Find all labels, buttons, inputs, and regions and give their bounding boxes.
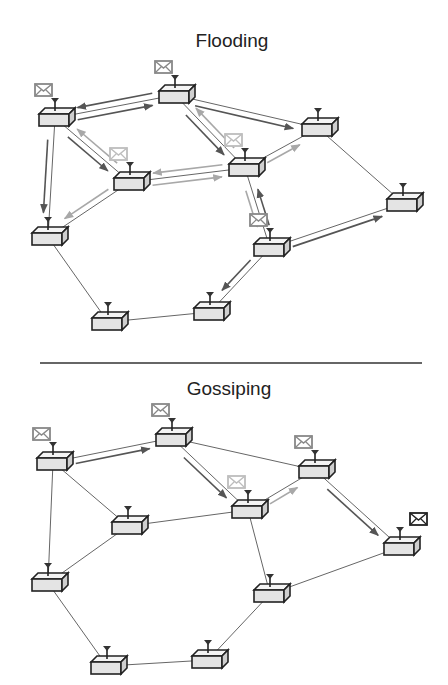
envelope-icon [152,404,169,416]
message-arrow [68,137,108,171]
message-arrow [78,105,153,119]
network-link [172,438,248,510]
network-link [245,168,270,248]
envelope-icon [228,476,245,488]
message-arrow [65,189,109,218]
message-arrow [327,489,378,535]
sensor-node [225,134,265,176]
sensor-node [33,428,73,470]
sensor-node [110,148,150,190]
sensor-node [32,563,68,591]
sensor-node [32,217,68,245]
network-link [48,237,108,322]
network-link [318,128,403,203]
message-arrow [77,93,152,107]
envelope-icon [35,84,52,96]
message-arrow [43,140,47,213]
sensor-node [35,84,75,126]
network-diagram [0,0,448,685]
sensor-node [254,574,290,602]
message-arrow [267,145,300,163]
sensor-node [112,506,148,534]
sensor-node [387,183,423,211]
envelope-icon [155,61,172,73]
message-arrow [293,216,382,246]
sensor-node [302,108,338,136]
envelope-icon [410,513,427,525]
network-link [248,510,270,594]
network-link [315,470,400,547]
sensor-node [91,646,127,674]
sensor-node [295,436,335,478]
network-link [48,583,107,666]
message-arrow [186,115,224,155]
message-arrow [184,457,227,497]
network-link [175,95,245,168]
envelope-icon [33,428,50,440]
network-link [175,95,318,128]
message-arrow [76,449,150,464]
network-link [172,438,315,470]
envelope-icon [225,134,242,146]
envelope-icon [250,214,267,226]
sensor-node [152,404,192,446]
envelope-icon [110,148,127,160]
sensor-node [250,214,290,256]
sensor-node [384,513,427,555]
message-arrow [195,106,293,129]
message-arrow [270,487,298,503]
sensor-node [155,61,195,103]
envelope-icon [295,436,312,448]
message-arrow [222,260,251,290]
